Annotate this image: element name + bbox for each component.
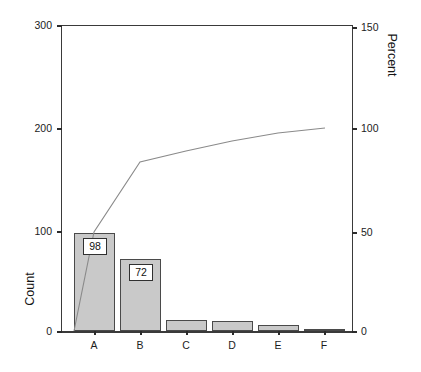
x-axis-label-d: D (212, 340, 252, 351)
x-axis-tick (232, 331, 234, 335)
y-axis-left-tick (57, 128, 62, 130)
y-axis-right-tick (352, 27, 357, 29)
bar-value-label-a: 98 (83, 238, 107, 255)
y-axis-right-line (352, 25, 353, 332)
y-axis-left-title: Count (23, 249, 37, 329)
pareto-chart: 300 200 100 0 150 100 50 0 Count Percent… (0, 0, 421, 372)
y-axis-right-tick (352, 331, 357, 333)
bar-c[interactable] (166, 320, 207, 331)
x-axis-label-c: C (166, 340, 206, 351)
bar-d[interactable] (212, 321, 253, 331)
y-axis-left-tick (57, 331, 62, 333)
x-axis-tick (94, 331, 96, 335)
y-axis-right-tick-label: 50 (361, 227, 401, 238)
y-axis-right-tick (352, 232, 357, 234)
cumulative-percent-line (0, 0, 421, 372)
y-axis-right-title: Percent (385, 15, 399, 95)
x-axis-label-f: F (304, 340, 344, 351)
x-axis-tick (140, 331, 142, 335)
x-axis-label-a: A (74, 340, 114, 351)
x-axis-line (61, 331, 353, 333)
y-axis-right-tick-label: 0 (361, 326, 401, 337)
y-axis-left-tick-label: 200 (12, 123, 52, 134)
x-axis-tick (186, 331, 188, 335)
x-axis-label-e: E (258, 340, 298, 351)
y-axis-left-tick-label: 300 (12, 20, 52, 31)
y-axis-left-tick (57, 231, 62, 233)
y-axis-left-line (61, 25, 62, 332)
x-axis-tick (324, 331, 326, 335)
y-axis-left-tick (57, 25, 62, 27)
bar-value-label-b: 72 (129, 264, 153, 281)
y-axis-left-tick-label: 100 (12, 226, 52, 237)
x-axis-label-b: B (120, 340, 160, 351)
y-axis-right-tick (352, 128, 357, 130)
plot-frame-top (61, 25, 353, 26)
x-axis-tick (278, 331, 280, 335)
y-axis-right-tick-label: 100 (361, 123, 401, 134)
